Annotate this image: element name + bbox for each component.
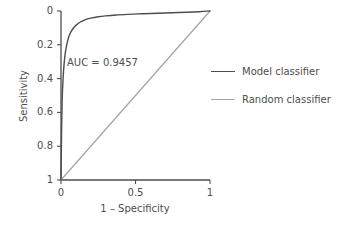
y-tick-label: 0.6	[37, 107, 53, 117]
legend-swatch-model-icon	[211, 71, 235, 72]
roc-curve-figure: Sensitivity 1 – Specificity 00.20.40.60.…	[0, 0, 344, 228]
y-tick-label: 1	[47, 175, 53, 185]
x-tick-label: 0	[58, 188, 64, 198]
y-tick-label: 0.8	[37, 141, 53, 151]
legend-label-model: Model classifier	[242, 66, 319, 77]
random-classifier-line	[61, 11, 210, 180]
x-axis-label: 1 – Specificity	[100, 203, 169, 214]
y-tick-label: 0.4	[37, 74, 53, 84]
chart-legend: Model classifier Random classifier	[211, 61, 344, 117]
legend-item-random[interactable]: Random classifier	[211, 89, 344, 109]
x-tick-label: 1	[207, 188, 213, 198]
legend-item-model[interactable]: Model classifier	[211, 61, 344, 81]
y-axis-label: Sensitivity	[18, 70, 29, 122]
auc-annotation: AUC = 0.9457	[67, 57, 138, 68]
legend-label-random: Random classifier	[242, 94, 331, 105]
legend-swatch-random-icon	[211, 99, 235, 100]
y-tick-label: 0	[47, 6, 53, 16]
y-tick-label: 0.2	[37, 40, 53, 50]
x-tick-label: 0.5	[128, 188, 144, 198]
